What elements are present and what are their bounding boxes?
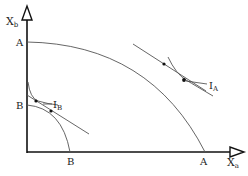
- indifference-b-label: IB: [53, 99, 62, 112]
- indifference-curve-a: [168, 57, 213, 96]
- y-axis-label: Xb: [6, 15, 19, 29]
- indifference-a-label: IA: [209, 80, 219, 93]
- trade-diagram: Xb Xa A A IA B B IB: [0, 0, 248, 176]
- ppf-b-curve: [27, 105, 70, 152]
- ppf-a-curve: [27, 42, 205, 152]
- production-point-a: [162, 62, 165, 65]
- indifference-a-pointer: [186, 81, 207, 84]
- ppf-a-x-intercept-label: A: [199, 156, 208, 167]
- price-line-a: [133, 44, 206, 91]
- consumption-point-b: [34, 99, 37, 102]
- y-axis-arrow-icon: [22, 6, 32, 20]
- ppf-a-y-intercept-label: A: [15, 37, 24, 48]
- ppf-b-y-intercept-label: B: [16, 100, 23, 111]
- x-axis-label: Xa: [227, 156, 239, 170]
- consumption-point-a: [182, 78, 186, 82]
- ppf-b-x-intercept-label: B: [67, 156, 74, 167]
